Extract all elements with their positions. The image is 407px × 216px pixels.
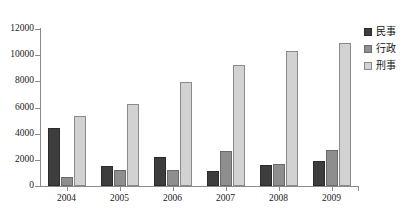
bar-民事-2007 (207, 171, 219, 186)
bar-民事-2004 (48, 128, 60, 186)
x-axis-tick (67, 186, 68, 191)
x-axis-tick (120, 186, 121, 191)
y-axis-tick-label: 12000 (1, 24, 34, 34)
y-axis-tick (35, 186, 41, 187)
bar-刑事-2007 (233, 65, 245, 186)
legend-item-刑事[interactable]: 刑事 (364, 58, 407, 73)
x-axis-tick-label: 2007 (199, 194, 253, 204)
bar-民事-2009 (313, 161, 325, 186)
plot-area (40, 29, 358, 186)
chart-legend: 民事行政刑事 (364, 24, 407, 75)
bar-行政-2008 (273, 164, 285, 186)
x-axis-end-tick (358, 186, 359, 191)
bar-行政-2004 (61, 177, 73, 186)
legend-item-民事[interactable]: 民事 (364, 24, 407, 39)
bar-民事-2008 (260, 165, 272, 186)
x-axis-tick-label: 2006 (146, 194, 200, 204)
y-axis-tick-label: 0 (1, 181, 34, 191)
bar-民事-2005 (101, 166, 113, 186)
bar-行政-2006 (167, 170, 179, 186)
x-axis-line (40, 186, 359, 187)
bar-行政-2009 (326, 150, 338, 186)
bar-刑事-2005 (127, 104, 139, 186)
bar-行政-2007 (220, 151, 232, 186)
legend-item-行政[interactable]: 行政 (364, 41, 407, 56)
legend-item-label: 刑事 (376, 61, 396, 71)
bar-行政-2005 (114, 170, 126, 186)
bar-刑事-2004 (74, 116, 86, 186)
x-axis-tick (332, 186, 333, 191)
legend-swatch-icon (364, 45, 372, 53)
legend-swatch-icon (364, 62, 372, 70)
bar-民事-2006 (154, 157, 166, 186)
legend-swatch-icon (364, 28, 372, 36)
x-axis-tick (173, 186, 174, 191)
x-axis-tick (279, 186, 280, 191)
x-axis-tick-label: 2005 (93, 194, 147, 204)
x-axis-tick-label: 2008 (252, 194, 306, 204)
y-axis-tick-label: 4000 (1, 129, 34, 139)
bar-刑事-2009 (339, 43, 351, 186)
x-axis-tick (226, 186, 227, 191)
y-axis-tick-label: 8000 (1, 77, 34, 87)
x-axis-tick-label: 2009 (305, 194, 359, 204)
legend-item-label: 民事 (376, 27, 396, 37)
x-axis-tick-label: 2004 (40, 194, 94, 204)
chart-figure: 020004000600080001000012000 200420052006… (0, 0, 407, 216)
bar-刑事-2008 (286, 51, 298, 186)
y-axis-tick-label: 2000 (1, 155, 34, 165)
y-axis-tick-label: 10000 (1, 50, 34, 60)
legend-item-label: 行政 (376, 44, 396, 54)
bar-刑事-2006 (180, 82, 192, 186)
y-axis-tick-label: 6000 (1, 103, 34, 113)
